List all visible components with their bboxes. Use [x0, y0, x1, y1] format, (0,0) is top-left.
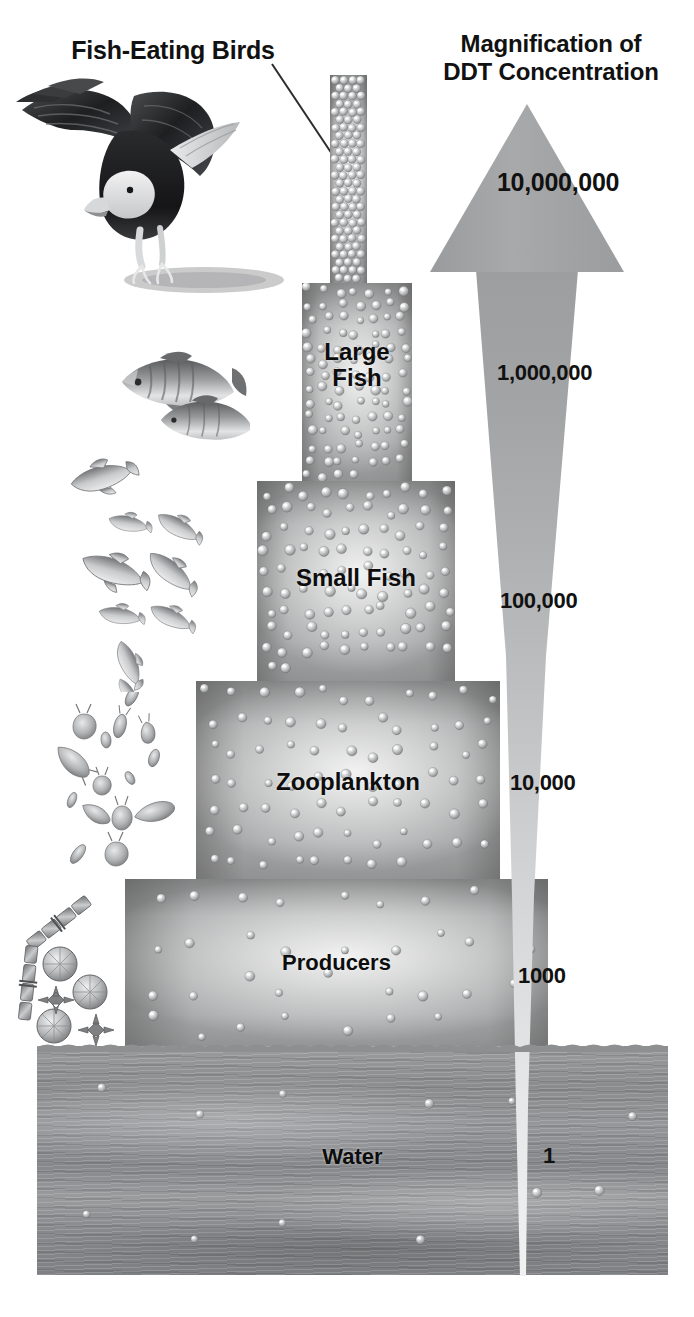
zooplankton-illustration-icon	[28, 692, 176, 882]
magnification-title: Magnification of DDT Concentration	[420, 30, 682, 87]
water-surface-scallop-icon	[37, 1040, 668, 1052]
magnification-title-line2: DDT Concentration	[420, 58, 682, 86]
magnification-value-1000000: 1,000,000	[497, 360, 592, 386]
eagle-illustration-icon	[14, 72, 274, 287]
level-label-zooplankton: Zooplankton	[196, 769, 500, 795]
magnification-title-line1: Magnification of	[420, 30, 682, 58]
level-bar-large-fish: Large Fish	[302, 283, 412, 481]
large-fish-illustration-icon	[104, 338, 250, 454]
magnification-value-100000: 100,000	[500, 588, 577, 614]
ddt-particles	[330, 75, 367, 284]
level-label-large-fish: Large Fish	[302, 339, 412, 392]
level-label-line1: Large	[302, 339, 412, 365]
magnification-value-1: 1	[543, 1143, 555, 1169]
magnification-value-10000: 10,000	[510, 770, 576, 796]
ddt-magnification-arrow-icon	[428, 96, 694, 1276]
level-label-line2: Fish	[302, 365, 412, 391]
small-fish-school-illustration-icon	[28, 452, 218, 692]
level-label-producers: Producers	[125, 951, 548, 975]
diagram-canvas: Fish-Eating Birds Magnification of DDT C…	[0, 0, 694, 1317]
magnification-value-10000000: 10,000,000	[497, 168, 619, 197]
level-label-water: Water	[37, 1144, 668, 1170]
level-label-small-fish: Small Fish	[257, 565, 455, 591]
magnification-value-1000: 1000	[518, 963, 566, 989]
level-bar-small-fish: Small Fish	[257, 481, 455, 681]
level-bar-fish-eating-birds	[330, 75, 367, 284]
